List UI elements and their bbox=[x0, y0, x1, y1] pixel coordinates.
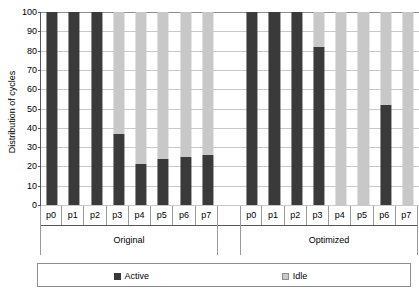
category-label-optimized-p5: p5 bbox=[351, 206, 373, 225]
legend-label: Idle bbox=[293, 271, 308, 281]
bar-cell bbox=[241, 12, 263, 205]
bar-segment-active bbox=[380, 105, 391, 205]
stacked-bar bbox=[69, 12, 80, 205]
stacked-bar bbox=[247, 12, 258, 205]
category-label-optimized-p7: p7 bbox=[396, 206, 418, 225]
category-label-optimized-p1: p1 bbox=[262, 206, 284, 225]
category-label-original-p0: p0 bbox=[40, 206, 62, 225]
category-label-original-p1: p1 bbox=[62, 206, 84, 225]
stacked-bar bbox=[269, 12, 280, 205]
stacked-bar bbox=[113, 12, 124, 205]
bar-segment-active bbox=[47, 12, 58, 205]
bar-segment-idle bbox=[180, 12, 191, 157]
stacked-bar bbox=[291, 12, 302, 205]
bar-segment-active bbox=[135, 164, 146, 205]
bar-segment-active bbox=[113, 134, 124, 205]
stacked-bar bbox=[336, 12, 347, 205]
stacked-bar bbox=[202, 12, 213, 205]
chart-container: Distribution of cycles 10090807060504030… bbox=[0, 0, 419, 296]
bar-cell bbox=[352, 12, 374, 205]
category-label-original-p7: p7 bbox=[196, 206, 218, 225]
bar-cell bbox=[85, 12, 107, 205]
stacked-bar bbox=[47, 12, 58, 205]
group-label-original: Original bbox=[40, 225, 218, 255]
legend-swatch-idle-icon bbox=[282, 273, 289, 280]
y-tick-label-0: 0 bbox=[3, 201, 37, 210]
y-tick-label-90: 90 bbox=[3, 27, 37, 36]
category-label-optimized-p2: p2 bbox=[285, 206, 307, 225]
category-label-optimized-p6: p6 bbox=[374, 206, 396, 225]
legend-label: Active bbox=[125, 271, 150, 281]
stacked-bar bbox=[402, 12, 413, 205]
stacked-bar bbox=[313, 12, 324, 205]
bar-segment-idle bbox=[358, 12, 369, 205]
bar-segment-idle bbox=[380, 12, 391, 105]
category-label-original-p3: p3 bbox=[107, 206, 129, 225]
bar-layer bbox=[41, 12, 419, 205]
stacked-bar bbox=[158, 12, 169, 205]
bar-cell bbox=[108, 12, 130, 205]
stacked-bar bbox=[91, 12, 102, 205]
bar-cell bbox=[263, 12, 285, 205]
bar-segment-active bbox=[313, 47, 324, 205]
y-tick-label-20: 20 bbox=[3, 162, 37, 171]
bar-cell bbox=[330, 12, 352, 205]
bar-segment-idle bbox=[202, 12, 213, 155]
bar-segment-active bbox=[91, 12, 102, 205]
bar-segment-idle bbox=[336, 12, 347, 205]
bar-cell bbox=[375, 12, 397, 205]
bar-segment-idle bbox=[158, 12, 169, 159]
bar-cell bbox=[397, 12, 419, 205]
bar-cell bbox=[152, 12, 174, 205]
category-label-original-p6: p6 bbox=[173, 206, 195, 225]
category-label-original-p2: p2 bbox=[84, 206, 106, 225]
y-tick-label-100: 100 bbox=[3, 8, 37, 17]
bar-cell bbox=[197, 12, 219, 205]
bar-segment-active bbox=[180, 157, 191, 205]
bar-cell bbox=[41, 12, 63, 205]
stacked-bar bbox=[358, 12, 369, 205]
bar-segment-active bbox=[269, 12, 280, 205]
legend-item-active[interactable]: Active bbox=[114, 264, 150, 288]
stacked-bar bbox=[380, 12, 391, 205]
group-label-optimized: Optimized bbox=[240, 225, 418, 255]
category-label-optimized-p4: p4 bbox=[329, 206, 351, 225]
bar-cell bbox=[63, 12, 85, 205]
stacked-bar bbox=[135, 12, 146, 205]
bar-segment-active bbox=[69, 12, 80, 205]
y-tick-label-30: 30 bbox=[3, 143, 37, 152]
bar-cell bbox=[130, 12, 152, 205]
bar-segment-idle bbox=[135, 12, 146, 164]
y-tick-label-60: 60 bbox=[3, 85, 37, 94]
bar-segment-active bbox=[202, 155, 213, 205]
plot-area: 1009080706050403020100 bbox=[40, 12, 419, 206]
y-tick-label-70: 70 bbox=[3, 65, 37, 74]
category-axis-row: p0p1p2p3p4p5p6p7p0p1p2p3p4p5p6p7 bbox=[40, 206, 418, 226]
y-tick-label-50: 50 bbox=[3, 104, 37, 113]
bar-segment-idle bbox=[402, 12, 413, 205]
category-label-optimized-p3: p3 bbox=[307, 206, 329, 225]
bar-segment-idle bbox=[113, 12, 124, 134]
bar-segment-active bbox=[158, 159, 169, 205]
category-label-original-p5: p5 bbox=[151, 206, 173, 225]
bar-cell bbox=[286, 12, 308, 205]
group-axis-row: OriginalOptimized bbox=[40, 225, 418, 255]
bar-cell bbox=[174, 12, 196, 205]
bar-segment-active bbox=[291, 12, 302, 205]
y-tick-label-80: 80 bbox=[3, 46, 37, 55]
category-label-original-p4: p4 bbox=[129, 206, 151, 225]
chart-legend: ActiveIdle bbox=[37, 263, 411, 287]
stacked-bar bbox=[180, 12, 191, 205]
bar-cell bbox=[308, 12, 330, 205]
y-tick-label-40: 40 bbox=[3, 123, 37, 132]
category-label-optimized-p0: p0 bbox=[240, 206, 262, 225]
bar-segment-active bbox=[247, 12, 258, 205]
legend-swatch-active-icon bbox=[114, 273, 121, 280]
bar-segment-idle bbox=[313, 12, 324, 47]
y-tick-label-10: 10 bbox=[3, 181, 37, 190]
legend-item-idle[interactable]: Idle bbox=[282, 264, 308, 288]
